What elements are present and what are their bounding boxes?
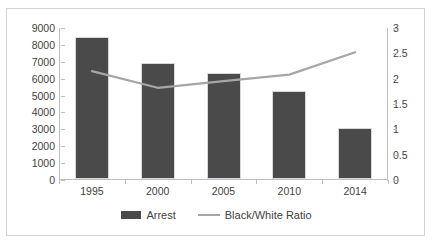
right-axis-tick-label: 0 bbox=[393, 175, 433, 186]
left-y-axis-labels: 0100020003000400050006000700080009000 bbox=[13, 28, 55, 180]
x-axis-tick-mark bbox=[256, 180, 257, 184]
right-axis-tick-label: 0.5 bbox=[393, 149, 433, 160]
x-axis-labels: 19952000200520102014 bbox=[59, 185, 388, 201]
x-axis-tick-label-1995: 1995 bbox=[80, 185, 103, 197]
right-axis-tick-label: 2.5 bbox=[393, 48, 433, 59]
right-axis-tick-mark bbox=[393, 129, 397, 130]
plot-area bbox=[59, 28, 388, 180]
legend-line-swatch-icon bbox=[198, 214, 220, 216]
line-series-black-white-ratio bbox=[59, 28, 388, 181]
right-axis-tick-mark bbox=[393, 53, 397, 54]
left-axis-tick-label: 6000 bbox=[13, 73, 55, 84]
left-axis-tick-label: 0 bbox=[13, 175, 55, 186]
left-axis-tick-label: 3000 bbox=[13, 124, 55, 135]
x-axis-tick-label-2005: 2005 bbox=[212, 185, 235, 197]
legend-bar-swatch-icon bbox=[121, 211, 141, 219]
right-axis-tick-label: 2 bbox=[393, 73, 433, 84]
legend-label-black-white-ratio: Black/White Ratio bbox=[225, 209, 312, 221]
legend-item-black-white-ratio[interactable]: Black/White Ratio bbox=[198, 209, 312, 221]
left-axis-tick-label: 5000 bbox=[13, 90, 55, 101]
chart-legend: Arrest Black/White Ratio bbox=[7, 209, 426, 221]
right-axis-tick-mark bbox=[393, 28, 397, 29]
left-axis-tick-label: 1000 bbox=[13, 158, 55, 169]
legend-label-arrest: Arrest bbox=[146, 209, 175, 221]
x-axis-tick-mark bbox=[191, 180, 192, 184]
right-axis-tick-mark bbox=[393, 79, 397, 80]
left-axis-tick-label: 8000 bbox=[13, 40, 55, 51]
x-axis-tick-mark bbox=[125, 180, 126, 184]
legend-item-arrest[interactable]: Arrest bbox=[121, 209, 175, 221]
x-axis-tick-label-2014: 2014 bbox=[343, 185, 366, 197]
left-axis-tick-label: 2000 bbox=[13, 141, 55, 152]
x-axis-tick-label-2000: 2000 bbox=[146, 185, 169, 197]
chart-frame: 0100020003000400050006000700080009000 00… bbox=[6, 8, 425, 236]
right-y-axis-labels: 00.511.522.53 bbox=[393, 28, 433, 180]
left-axis-tick-label: 7000 bbox=[13, 57, 55, 68]
right-axis-tick-mark bbox=[393, 155, 397, 156]
right-axis-tick-mark bbox=[393, 180, 397, 181]
x-axis-tick-mark bbox=[388, 180, 389, 184]
x-axis-tick-mark bbox=[59, 180, 60, 184]
x-axis-tick-mark bbox=[322, 180, 323, 184]
right-axis-tick-label: 1 bbox=[393, 124, 433, 135]
x-axis-tick-label-2010: 2010 bbox=[278, 185, 301, 197]
left-axis-tick-label: 4000 bbox=[13, 107, 55, 118]
left-axis-tick-label: 9000 bbox=[13, 23, 55, 34]
right-axis-tick-label: 1.5 bbox=[393, 99, 433, 110]
right-axis-tick-label: 3 bbox=[393, 23, 433, 34]
clipped-chart-title bbox=[67, 2, 387, 10]
right-axis-tick-mark bbox=[393, 104, 397, 105]
